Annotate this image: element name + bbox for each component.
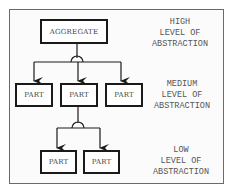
low-level-line1: LOW	[141, 145, 221, 156]
low-level-line2: LEVEL OF	[141, 156, 221, 167]
part-box-medium-2: PART	[60, 83, 98, 107]
medium-level-line1: MEDIUM	[142, 79, 222, 90]
high-level-line1: HIGH	[140, 17, 220, 28]
aggregate-box: AGGREGATE	[40, 19, 108, 44]
high-level-line3: ABSTRACTION	[140, 39, 220, 50]
high-level-line2: LEVEL OF	[140, 28, 220, 39]
medium-level-line3: ABSTRACTION	[142, 101, 222, 112]
medium-level-line2: LEVEL OF	[142, 90, 222, 101]
low-level-label: LOW LEVEL OF ABSTRACTION	[141, 145, 221, 178]
high-level-label: HIGH LEVEL OF ABSTRACTION	[140, 17, 220, 50]
part-box-low-2: PART	[83, 150, 120, 174]
low-level-line3: ABSTRACTION	[141, 167, 221, 178]
part-box-medium-3: PART	[105, 83, 143, 107]
part-box-medium-1: PART	[15, 83, 53, 107]
medium-level-label: MEDIUM LEVEL OF ABSTRACTION	[142, 79, 222, 112]
part-box-low-1: PART	[40, 150, 77, 174]
